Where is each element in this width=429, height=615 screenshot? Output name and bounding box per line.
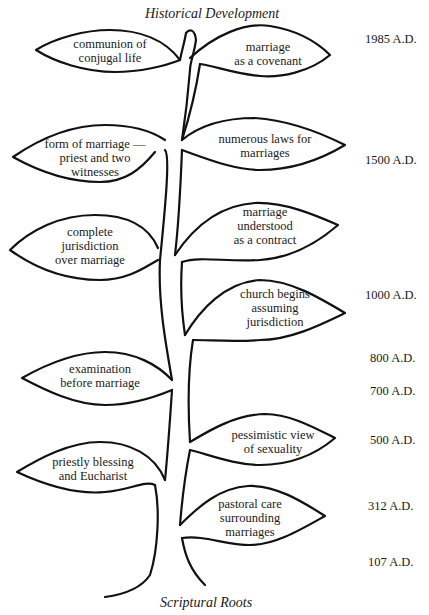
leaf-text: conjugal life (55, 51, 165, 65)
leaf-text: jurisdiction (225, 315, 325, 329)
bottom-title: Scriptural Roots (160, 595, 252, 611)
leaf-text: surrounding (210, 511, 290, 525)
leaf-text: church begins (225, 287, 325, 301)
date-label: 312 A.D. (368, 499, 414, 514)
leaf-form: form of marriage — priest and two witnes… (35, 137, 155, 179)
date-label: 700 A.D. (370, 384, 416, 399)
date-label: 1000 A.D. (365, 288, 417, 303)
date-label: 1500 A.D. (365, 153, 417, 168)
leaf-text: marriages (210, 525, 290, 539)
leaf-text: examination (45, 362, 155, 376)
date-label: 107 A.D. (368, 555, 414, 570)
leaf-text: complete (35, 225, 145, 239)
leaf-text: marriages (205, 146, 325, 160)
leaf-text: form of marriage — (35, 137, 155, 151)
leaf-text: before marriage (45, 376, 155, 390)
leaf-text: pessimistic view (223, 428, 323, 442)
leaf-jurisdiction-complete: complete jurisdiction over marriage (35, 225, 145, 267)
leaf-church-begins: church begins assuming jurisdiction (225, 287, 325, 329)
leaf-text: priestly blessing (38, 455, 148, 469)
leaf-text: witnesses (35, 165, 155, 179)
leaf-text: and Eucharist (38, 469, 148, 483)
leaf-text: marriage (218, 40, 318, 54)
leaf-text: assuming (225, 301, 325, 315)
leaf-text: as a contract (225, 233, 305, 247)
leaf-pastoral: pastoral care surrounding marriages (210, 497, 290, 539)
leaf-text: pastoral care (210, 497, 290, 511)
leaf-laws: numerous laws for marriages (205, 132, 325, 160)
leaf-pessimistic: pessimistic view of sexuality (223, 428, 323, 456)
leaf-communion: communion of conjugal life (55, 37, 165, 65)
leaf-text: of sexuality (223, 442, 323, 456)
leaf-blessing: priestly blessing and Eucharist (38, 455, 148, 483)
date-label: 1985 A.D. (365, 32, 417, 47)
leaf-contract: marriage understood as a contract (225, 205, 305, 247)
leaf-text: communion of (55, 37, 165, 51)
date-label: 800 A.D. (370, 351, 416, 366)
leaf-examination: examination before marriage (45, 362, 155, 390)
leaf-text: as a covenant (218, 54, 318, 68)
date-label: 500 A.D. (370, 433, 416, 448)
leaf-text: over marriage (35, 253, 145, 267)
leaf-text: jurisdiction (35, 239, 145, 253)
leaf-text: understood (225, 219, 305, 233)
leaf-text: priest and two (35, 151, 155, 165)
leaf-covenant: marriage as a covenant (218, 40, 318, 68)
leaf-text: marriage (225, 205, 305, 219)
top-title: Historical Development (145, 6, 279, 22)
leaf-text: numerous laws for (205, 132, 325, 146)
